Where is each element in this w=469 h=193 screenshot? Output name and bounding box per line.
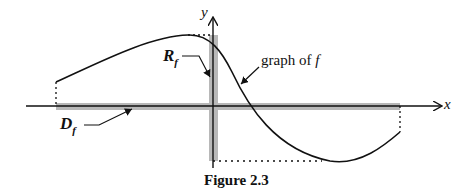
domain-label-main: D <box>60 114 72 133</box>
domain-label: Df <box>60 114 76 134</box>
range-label-main: R <box>163 46 174 65</box>
graph-label-text: graph of <box>261 52 315 68</box>
y-axis-label: y <box>201 4 208 21</box>
figure-caption: Figure 2.3 <box>204 172 269 189</box>
function-curve <box>56 35 400 162</box>
graph-pointer-arrow <box>241 67 259 84</box>
range-pointer-arrow <box>182 56 210 77</box>
function-graph-diagram <box>0 0 469 193</box>
x-axis-label: x <box>444 96 451 113</box>
range-label-sub: f <box>174 56 178 68</box>
range-label: Rf <box>163 46 178 66</box>
figure-2-3: y x Rf Df graph of f Figure 2.3 <box>0 0 469 193</box>
graph-label: graph of f <box>261 52 319 69</box>
domain-label-sub: f <box>72 124 76 136</box>
domain-pointer-arrow <box>84 109 132 125</box>
graph-label-fn: f <box>315 52 319 68</box>
